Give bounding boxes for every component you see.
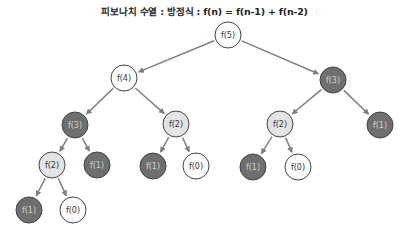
edge-arrow [139,41,214,72]
node-label: f(0) [66,206,80,215]
edge-arrow [344,90,369,114]
edge-arrow [36,178,45,195]
edge-arrow [292,90,321,114]
node-label: f(1) [90,161,104,170]
node-label: f(1) [246,163,260,172]
edge-arrow [262,137,273,154]
tree-node: f(2) [39,152,65,178]
node-label: f(2) [45,161,59,170]
node-label: f(0) [189,162,203,171]
node-label: f(5) [221,31,235,40]
node-label: f(1) [146,162,160,171]
tree-node: f(0) [285,154,311,180]
tree-node: f(2) [267,111,293,137]
tree-node: f(2) [163,111,189,137]
node-label: f(1) [22,206,36,215]
edge-arrow [135,88,164,113]
node-label: f(4) [117,74,131,83]
tree-node: f(3) [320,67,346,93]
tree-node: f(0) [183,153,209,179]
node-label: f(3) [68,121,82,130]
tree-node: f(1) [140,153,166,179]
tree-node: f(3) [62,112,88,138]
edge-arrow [182,138,189,152]
tree-node: f(4) [111,65,137,91]
edge-arrow [242,41,319,74]
fibonacci-recursion-tree: f(5)f(4)f(3)f(3)f(2)f(2)f(1)f(2)f(1)f(1)… [0,0,409,230]
tree-node: f(1) [240,154,266,180]
tree-node: f(0) [60,197,86,223]
edge-arrow [87,88,114,114]
edge-arrow [60,138,68,151]
node-label: f(3) [326,76,340,85]
edge-arrow [286,138,292,152]
tree-node: f(1) [367,112,393,138]
tree-node: f(5) [215,22,241,48]
tree-node: f(1) [16,197,42,223]
edge-arrow [82,138,89,151]
edge-arrow [161,137,169,152]
node-label: f(2) [273,120,287,129]
nodes-layer: f(5)f(4)f(3)f(3)f(2)f(2)f(1)f(2)f(1)f(1)… [16,22,393,223]
edge-arrow [58,179,66,196]
node-label: f(1) [373,121,387,130]
node-label: f(0) [291,163,305,172]
node-label: f(2) [169,120,183,129]
tree-node: f(1) [84,152,110,178]
